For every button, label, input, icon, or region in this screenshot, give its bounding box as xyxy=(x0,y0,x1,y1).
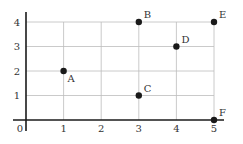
x-tick-label: 0 xyxy=(17,123,23,134)
point-marker xyxy=(211,117,217,123)
point-label: B xyxy=(144,9,151,20)
y-tick-label: 2 xyxy=(14,66,20,77)
point-e: E xyxy=(211,9,227,25)
point-marker xyxy=(60,68,66,74)
data-points: ABCDEF xyxy=(60,9,226,123)
scatter-chart: 0123451234 ABCDEF xyxy=(0,0,243,144)
point-marker xyxy=(136,92,142,98)
axes xyxy=(13,12,224,131)
x-tick-label: 1 xyxy=(60,123,66,134)
x-tick-label: 2 xyxy=(98,123,104,134)
x-tick-label: 5 xyxy=(211,123,217,134)
point-b: B xyxy=(136,9,152,25)
y-tick-label: 4 xyxy=(14,17,20,28)
point-label: E xyxy=(219,9,226,20)
point-a: A xyxy=(60,68,75,84)
point-marker xyxy=(173,43,179,49)
x-tick-label: 4 xyxy=(173,123,179,134)
x-tick-label: 3 xyxy=(136,123,142,134)
point-label: C xyxy=(144,83,152,94)
y-tick-label: 3 xyxy=(14,41,20,52)
point-d: D xyxy=(173,34,189,50)
point-label: D xyxy=(181,34,189,45)
y-tick-label: 1 xyxy=(14,90,20,101)
point-marker xyxy=(211,19,217,25)
point-marker xyxy=(136,19,142,25)
point-label: A xyxy=(67,73,76,84)
point-label: F xyxy=(219,107,226,118)
point-c: C xyxy=(136,83,152,99)
